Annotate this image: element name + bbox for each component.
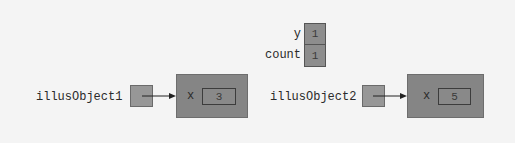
reference-arrows <box>0 0 515 143</box>
arrow-illusObject2-to-object-2 <box>373 93 407 99</box>
arrow-illusObject1-to-object-1 <box>142 93 176 99</box>
